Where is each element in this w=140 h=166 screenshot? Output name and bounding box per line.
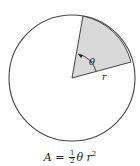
area-formula: A = 1 2 θ r2 <box>0 147 140 165</box>
radius-label: r <box>102 72 107 82</box>
sector-diagram: θ r <box>0 0 140 145</box>
formula-exponent: 2 <box>92 150 96 158</box>
fraction-denominator: 2 <box>69 158 75 165</box>
formula-lhs: A <box>44 151 52 164</box>
formula-theta: θ <box>76 151 83 164</box>
formula-equals: = <box>55 151 64 164</box>
formula-fraction: 1 2 <box>69 150 75 165</box>
theta-label: θ <box>89 56 95 67</box>
